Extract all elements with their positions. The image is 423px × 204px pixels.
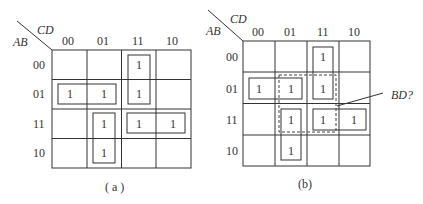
col-var-label: CD — [230, 13, 247, 25]
col-label: 01 — [284, 26, 296, 38]
col-label: 11 — [317, 26, 329, 38]
annotation-pointer — [337, 93, 383, 106]
cell-value: 1 — [348, 114, 360, 126]
cell-value: 1 — [317, 51, 329, 63]
caption-b: (b) — [298, 177, 312, 192]
cell-value: 1 — [253, 83, 265, 95]
col-label: 10 — [348, 26, 360, 38]
cell-value: 1 — [317, 83, 329, 95]
row-label: 10 — [226, 145, 238, 157]
row-label: 11 — [226, 114, 238, 126]
cell-value: 1 — [285, 145, 297, 157]
col-label: 00 — [252, 26, 264, 38]
row-label: 00 — [226, 51, 238, 63]
cell-value: 1 — [317, 114, 329, 126]
row-label: 01 — [226, 83, 238, 95]
annotation-label: BD? — [391, 89, 413, 101]
cell-value: 1 — [285, 83, 297, 95]
cell-value: 1 — [285, 114, 297, 126]
row-var-label: AB — [206, 25, 221, 37]
